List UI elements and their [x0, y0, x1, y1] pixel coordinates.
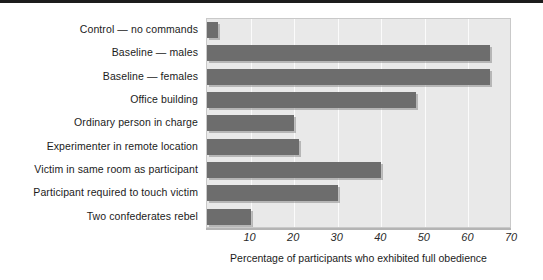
bar-row [207, 112, 510, 135]
bar-row [207, 42, 510, 65]
category-label: Office building [130, 88, 198, 111]
x-axis-line [206, 228, 511, 230]
bar-row [207, 206, 510, 228]
bar [207, 162, 381, 178]
obedience-bar-chart: Control — no commandsBaseline — malesBas… [0, 0, 543, 280]
bar-row [207, 19, 510, 42]
x-tick-label: 20 [273, 231, 313, 243]
bar-row [207, 89, 510, 112]
bar [207, 139, 299, 155]
category-label: Experimenter in remote location [47, 135, 198, 158]
category-label: Participant required to touch victim [33, 181, 198, 204]
plot-area [206, 18, 511, 228]
x-tick-label: 30 [317, 231, 357, 243]
x-tick-label: 50 [404, 231, 444, 243]
bar [207, 115, 294, 131]
top-rule-divider [0, 0, 543, 3]
category-label: Baseline — females [103, 65, 198, 88]
category-label: Victim in same room as participant [34, 158, 198, 181]
category-label: Ordinary person in charge [74, 111, 198, 134]
category-label-column: Control — no commandsBaseline — malesBas… [0, 18, 202, 228]
bar-row [207, 182, 510, 205]
bar-row [207, 136, 510, 159]
bar [207, 209, 251, 225]
bar [207, 22, 218, 38]
bar [207, 69, 490, 85]
bar-row [207, 66, 510, 89]
category-label: Baseline — males [112, 41, 198, 64]
bar [207, 92, 416, 108]
x-tick-label: 10 [230, 231, 270, 243]
bar [207, 185, 338, 201]
x-tick-label: 40 [360, 231, 400, 243]
x-axis-caption: Percentage of participants who exhibited… [206, 252, 511, 264]
bar-row [207, 159, 510, 182]
x-axis-tick-labels: 10203040506070 [0, 231, 543, 247]
category-label: Two confederates rebel [87, 205, 198, 228]
x-tick-label: 60 [447, 231, 487, 243]
bar [207, 45, 490, 61]
category-label: Control — no commands [80, 18, 198, 41]
x-tick-label: 70 [491, 231, 531, 243]
